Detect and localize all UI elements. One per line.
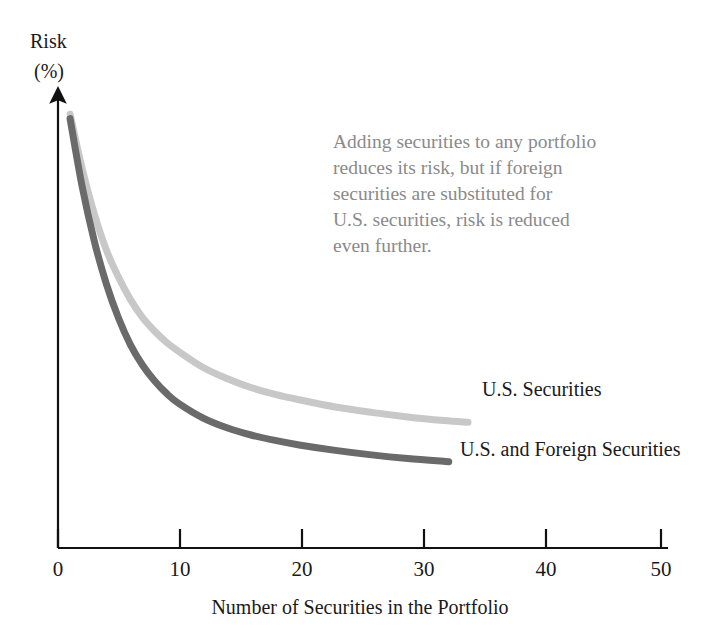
annotation-line-1: Adding securities to any portfolio xyxy=(333,131,596,152)
annotation-line-3: securities are substituted for xyxy=(333,183,553,204)
y-axis-title-line1: Risk xyxy=(30,30,67,52)
series-label-us-securities: U.S. Securities xyxy=(482,378,602,400)
x-tick-label-50: 50 xyxy=(651,557,672,581)
chart-canvas: Risk (%) 0 10 20 30 40 50 Number of Secu… xyxy=(0,0,712,630)
series-label-us-and-foreign-securities: U.S. and Foreign Securities xyxy=(460,438,681,461)
x-tick-label-30: 30 xyxy=(414,557,435,581)
x-axis-title: Number of Securities in the Portfolio xyxy=(211,596,508,618)
annotation-line-4: U.S. securities, risk is reduced xyxy=(333,209,570,230)
annotation-line-2: reduces its risk, but if foreign xyxy=(333,157,563,178)
x-tick-label-20: 20 xyxy=(292,557,313,581)
x-tick-label-0: 0 xyxy=(53,557,64,581)
x-tick-label-40: 40 xyxy=(536,557,557,581)
x-tick-label-10: 10 xyxy=(170,557,191,581)
risk-diversification-chart: Risk (%) 0 10 20 30 40 50 Number of Secu… xyxy=(0,0,712,630)
annotation-line-5: even further. xyxy=(333,235,432,256)
y-axis-title-line2: (%) xyxy=(34,60,64,83)
